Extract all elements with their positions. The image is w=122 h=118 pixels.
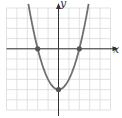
marked-point (56, 87, 61, 92)
y-axis-label: y (60, 0, 66, 9)
axes (7, 3, 119, 116)
parabola-plot (0, 0, 122, 118)
marked-point (77, 46, 82, 51)
x-axis-label: x (113, 44, 119, 55)
marked-point (35, 46, 40, 51)
